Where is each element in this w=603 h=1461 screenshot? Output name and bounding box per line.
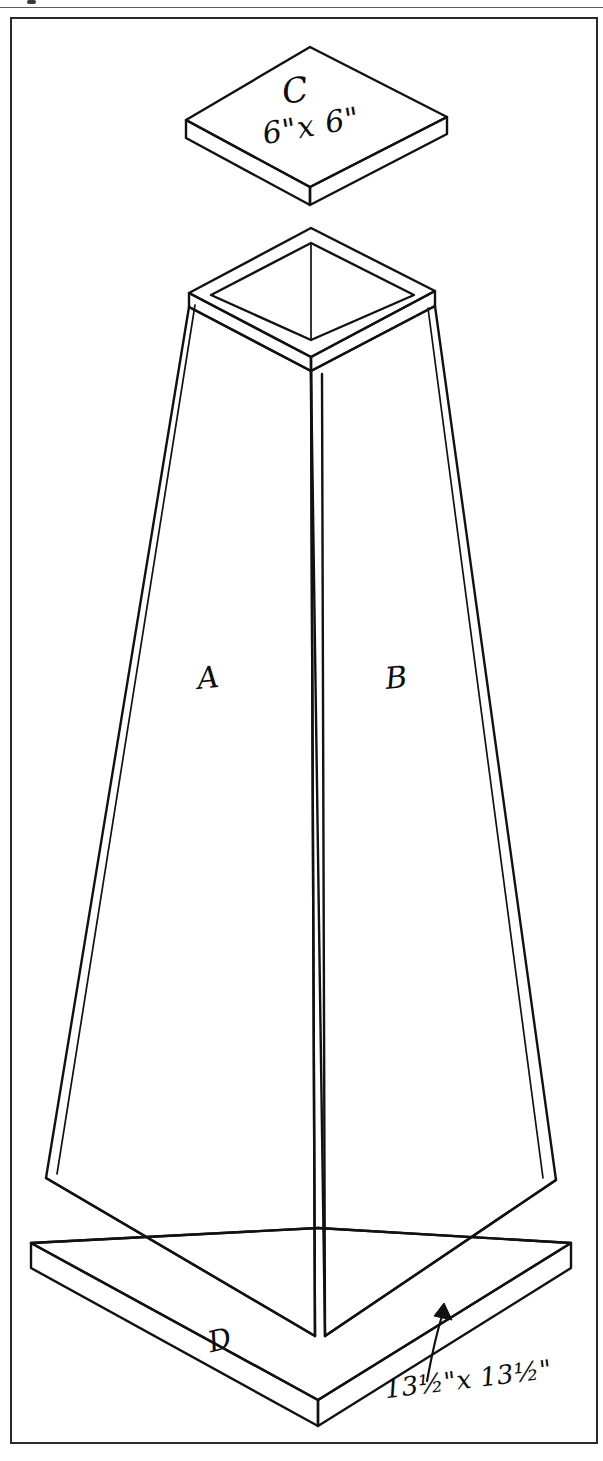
- rim-outer-top: [189, 228, 435, 357]
- rim-inner-opening: [211, 243, 414, 340]
- obelisk-line-drawing: [0, 0, 603, 1461]
- left-panel-outer-edge-thickness: [57, 305, 195, 1174]
- base-back-left-edge: [31, 1228, 318, 1243]
- base-back-right-edge: [318, 1228, 571, 1243]
- obelisk-top-rim: [189, 228, 435, 371]
- right-panel-outer-edge-thickness: [428, 308, 543, 1178]
- part-b-right-panel: [311, 306, 556, 1336]
- left-panel-face: [46, 307, 315, 1336]
- footprint-left-edge: [46, 1178, 315, 1336]
- base-front-left-thickness: [31, 1243, 318, 1426]
- panel-label-a: A: [195, 659, 220, 696]
- base-front-right-thickness: [318, 1243, 571, 1426]
- part-a-left-panel: [46, 305, 315, 1336]
- drawing-page: C 6"x 6" A B D 13½"x 13½": [0, 0, 603, 1461]
- right-panel-face: [311, 306, 556, 1336]
- leader-arrowhead: [434, 1303, 452, 1320]
- panel-label-b: B: [383, 659, 409, 696]
- obelisk-footprint: [46, 1178, 556, 1336]
